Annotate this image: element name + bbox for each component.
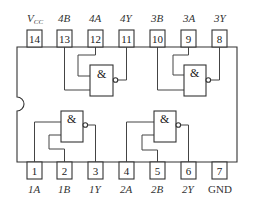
svg-text:13: 13 [59, 33, 71, 45]
wire-4y [118, 47, 127, 80]
pin-label-1b: 1B [58, 183, 71, 195]
pin-2: 2 [57, 162, 72, 179]
svg-text:9: 9 [186, 33, 192, 45]
pin-13: 13 [57, 30, 72, 47]
svg-text:7: 7 [217, 165, 223, 177]
gate-1: & [35, 111, 96, 162]
svg-text:5: 5 [155, 165, 161, 177]
inversion-bubble-1 [83, 123, 88, 128]
pin-4: 4 [119, 162, 134, 179]
pin-label-4a: 4A [89, 12, 102, 24]
pin-12: 12 [88, 30, 103, 47]
svg-text:&: & [67, 112, 77, 126]
svg-text:&: & [160, 112, 170, 126]
svg-text:&: & [97, 67, 107, 81]
pin-3: 3 [88, 162, 103, 179]
pin-label-3b: 3B [150, 12, 164, 24]
pin-6: 6 [181, 162, 196, 179]
pin-10: 10 [150, 30, 165, 47]
gate-2: & [127, 111, 189, 162]
pin-label-2a: 2A [120, 183, 133, 195]
wire-3y [211, 47, 220, 80]
pin-label-4b: 4B [58, 12, 71, 24]
wire-1y [88, 125, 96, 162]
svg-text:2: 2 [62, 165, 68, 177]
wire-2y [181, 125, 189, 162]
svg-text:14: 14 [29, 33, 41, 45]
pin-label-3a: 3A [182, 12, 196, 24]
pin-8: 8 [212, 30, 227, 47]
ic-pinout-diagram: VCC 4B 4A 4Y 3B 3A 3Y 14 13 12 11 10 9 8… [0, 0, 253, 203]
inversion-bubble-4 [113, 78, 118, 83]
svg-text:1: 1 [32, 165, 38, 177]
inversion-bubble-2 [176, 123, 181, 128]
wire-3b [158, 47, 185, 90]
gate-4: & [65, 47, 127, 96]
pin-label-1y: 1Y [89, 183, 103, 195]
pin-label-2b: 2B [151, 183, 164, 195]
svg-text:10: 10 [152, 33, 164, 45]
wire-4b [65, 47, 91, 90]
pin-5: 5 [150, 162, 165, 179]
pin-9: 9 [181, 30, 196, 47]
svg-text:11: 11 [121, 33, 132, 45]
svg-text:6: 6 [186, 165, 192, 177]
svg-text:3: 3 [93, 165, 99, 177]
gate-3: & [158, 47, 220, 96]
pin-label-2y: 2Y [182, 183, 196, 195]
pin-7: 7 [212, 162, 227, 179]
pin-14: 14 [27, 30, 42, 47]
inversion-bubble-3 [206, 78, 211, 83]
pin-label-3y: 3Y [213, 12, 228, 24]
pin-label-gnd: GND [208, 183, 232, 195]
pin-1: 1 [27, 162, 42, 179]
pin-label-1a: 1A [28, 183, 41, 195]
svg-text:&: & [190, 66, 200, 80]
pin-11: 11 [119, 30, 134, 47]
wire-2a [127, 122, 155, 162]
wire-1a [35, 122, 62, 162]
pin-label-4y: 4Y [120, 12, 134, 24]
svg-text:12: 12 [90, 33, 101, 45]
pin-label-vcc: VCC [27, 12, 43, 26]
svg-text:8: 8 [217, 33, 223, 45]
svg-text:4: 4 [124, 165, 130, 177]
